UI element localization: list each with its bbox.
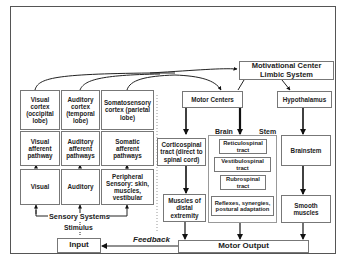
auditory-cortex-node: Auditory cortex (temporal lobe) <box>61 90 100 130</box>
peripheral-sensory-node: Peripheral Sensory: skin, muscles, vesti… <box>101 169 154 205</box>
stimulus-label: Stimulus <box>64 224 93 231</box>
hypothalamus-node: Hypothalamus <box>277 91 332 108</box>
sensory-systems-label: Sensory Systems <box>49 212 110 221</box>
brainstem-node: Brainstem <box>281 135 331 166</box>
visual-node: Visual <box>20 169 60 205</box>
somatosensory-cortex-node: Somatosensory cortex (parietal lobe) <box>101 90 154 130</box>
smooth-muscles-node: Smooth muscles <box>281 195 331 223</box>
somatic-afferent-node: Somatic afferent pathways <box>101 131 154 166</box>
vestibulospinal-node: Vestibulospinal tract <box>214 157 271 172</box>
auditory-afferent-node: Auditory afferent pathways <box>61 131 100 166</box>
reflexes-node: Reflexes, synergies, postural adaptation <box>211 196 274 216</box>
motor-centers-node: Motor Centers <box>182 91 243 108</box>
auditory-node: Auditory <box>61 169 100 205</box>
motivational-center-node: Motivational Center Limbic System <box>239 61 334 80</box>
corticospinal-node: Corticospinal tract (direct to spinal co… <box>157 138 206 166</box>
visual-cortex-node: Visual cortex (occipital lobe) <box>20 90 60 130</box>
reticulospinal-node: Reticulospinal tract <box>219 139 267 154</box>
brain-label: Brain <box>215 128 233 135</box>
rubrospinal-node: Rubrospinal tract <box>220 175 266 190</box>
motor-output-node: Motor Output <box>178 240 309 253</box>
input-node: Input <box>57 238 101 253</box>
stem-label: Stem <box>259 128 276 135</box>
muscles-distal-node: Muscles of distal extremity <box>163 194 206 222</box>
feedback-label: Feedback <box>133 235 170 244</box>
visual-afferent-node: Visual afferent pathway <box>20 131 60 166</box>
